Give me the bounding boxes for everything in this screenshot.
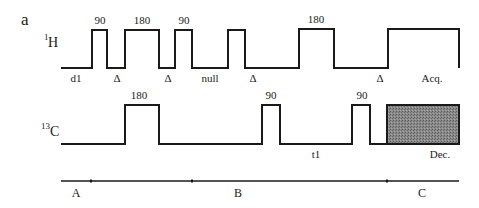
h-pulse-1-label: 90 <box>95 14 107 26</box>
acquisition-label: Acq. <box>421 72 442 84</box>
c-pulse-1-label: 180 <box>131 89 148 101</box>
h-pulse-2-label: 180 <box>134 14 151 26</box>
delay-d1-label: d1 <box>71 72 82 84</box>
h-pulse-3-label: 90 <box>179 14 191 26</box>
h-channel-label: 1 H <box>44 32 58 50</box>
delay-delta-4-label: Δ <box>376 72 383 84</box>
c-channel-trace <box>61 105 387 144</box>
decoupling-label: Dec. <box>430 148 451 160</box>
timeline-tick <box>386 180 388 183</box>
delay-null-label: null <box>201 72 218 84</box>
timeline-tick <box>90 180 92 183</box>
delay-delta-2-label: Δ <box>164 72 171 84</box>
panel-label: a <box>21 10 29 29</box>
segment-c-label: C <box>418 186 426 200</box>
evolution-t1-label: t1 <box>312 148 321 160</box>
c-channel-label: 13 C <box>41 121 59 139</box>
h-channel-trace <box>61 29 459 68</box>
timeline-tick <box>191 180 193 183</box>
delay-delta-3-label: Δ <box>249 72 256 84</box>
c-pulse-3-label: 90 <box>357 89 369 101</box>
segment-b-label: B <box>234 186 242 200</box>
h-pulse-5-label: 180 <box>308 13 325 25</box>
svg-text:H: H <box>48 35 58 50</box>
decoupling-block <box>387 105 459 144</box>
pulse-sequence-diagram: a 1 H 90 180 90 180 d1 Δ Δ null Δ Δ Acq.… <box>0 0 479 208</box>
delay-delta-1-label: Δ <box>113 72 120 84</box>
segment-a-label: A <box>72 186 81 200</box>
svg-text:C: C <box>50 124 59 139</box>
timeline <box>61 180 459 183</box>
c-pulse-2-label: 90 <box>266 89 278 101</box>
